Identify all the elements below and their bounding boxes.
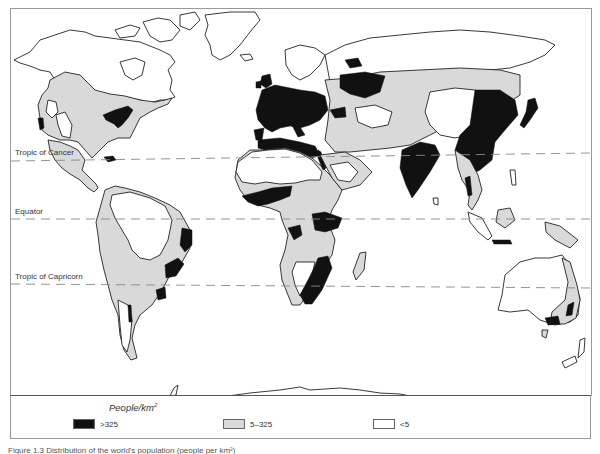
tropic-of-capricorn-label: Tropic of Capricorn (15, 272, 83, 281)
legend-swatch-low (373, 419, 395, 429)
legend-swatch-dense (73, 419, 95, 429)
legend-label-low: <5 (400, 420, 409, 429)
legend-title-text: People/km (109, 402, 154, 413)
legend-item-dense: >325 (73, 419, 118, 429)
legend-item-low: <5 (373, 419, 409, 429)
equator-label: Equator (15, 207, 43, 216)
legend-title-exponent: 2 (154, 402, 157, 408)
legend-item-mid: 5–325 (223, 419, 272, 429)
figure-caption: Figure 1.3 Distribution of the world's p… (8, 446, 235, 454)
population-map-figure: Tropic of Cancer Equator Tropic of Capri… (0, 0, 600, 454)
world-map: Tropic of Cancer Equator Tropic of Capri… (0, 0, 600, 454)
legend-label-mid: 5–325 (250, 420, 272, 429)
tropic-of-cancer-label: Tropic of Cancer (15, 148, 74, 157)
legend-swatch-mid (223, 419, 245, 429)
legend-title: People/km2 (109, 402, 157, 413)
legend: People/km2 >325 5–325 <5 (10, 395, 591, 439)
legend-label-dense: >325 (100, 420, 118, 429)
